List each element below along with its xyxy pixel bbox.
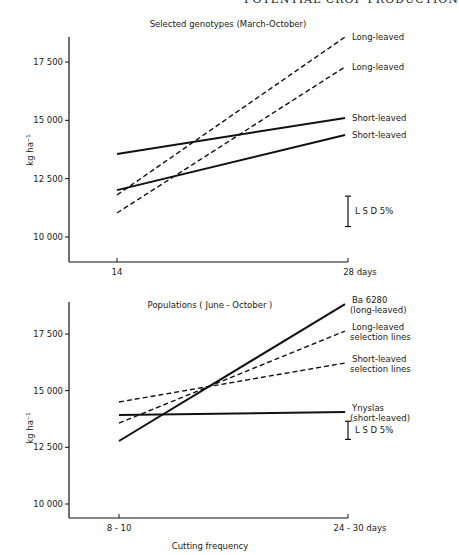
series-line-1 <box>119 304 345 441</box>
series-label: Short-leaved <box>352 113 406 123</box>
y-tick-label: 10 000 <box>33 499 63 509</box>
x-axis-label: Cutting frequency <box>172 541 248 551</box>
series-line-4 <box>119 412 345 415</box>
lsd-label: L S D 5% <box>355 425 393 435</box>
series-label: Short-leaved <box>352 130 406 140</box>
chart-title: Selected genotypes (March-October) <box>150 19 307 29</box>
series-line-1 <box>117 37 345 195</box>
series-line-4 <box>117 135 345 190</box>
series-label: Long-leaved <box>352 32 404 42</box>
x-tick-label: 14 <box>112 267 123 277</box>
series-label: Long-leaved <box>352 62 404 72</box>
series-label: Short-leaved <box>352 354 406 364</box>
y-tick-label: 17 500 <box>33 57 63 67</box>
series-label: (short-leaved) <box>350 413 410 423</box>
series-label: Ba 6280 <box>352 295 387 305</box>
y-tick-label: 12 500 <box>33 174 63 184</box>
y-axis-label: kg ha⁻¹ <box>25 412 35 444</box>
series-line-3 <box>117 118 345 154</box>
x-tick-label: 24 - 30 days <box>334 523 387 533</box>
series-label: Long-leaved <box>352 322 404 332</box>
series-label: selection lines <box>350 332 411 342</box>
x-tick-label: 8 - 10 <box>107 523 132 533</box>
y-tick-label: 15 000 <box>33 115 63 125</box>
x-tick-label: 28 days <box>343 267 377 277</box>
chart-panel-2: 10 00012 50015 00017 5008 - 1024 - 30 da… <box>25 295 411 551</box>
chart-title: Populations ( June - October ) <box>148 300 273 310</box>
series-line-2 <box>117 67 345 213</box>
series-line-3 <box>119 363 345 402</box>
y-axis-label: kg ha⁻¹ <box>25 134 35 166</box>
y-tick-label: 17 500 <box>33 329 63 339</box>
chart-panel-1: 10 00012 50015 00017 5001428 dayskg ha⁻¹… <box>25 19 406 277</box>
series-label: (long-leaved) <box>350 305 407 315</box>
series-label: Ynyslas <box>351 403 385 413</box>
series-line-2 <box>119 331 345 423</box>
series-label: selection lines <box>350 364 411 374</box>
y-tick-label: 12 500 <box>33 442 63 452</box>
y-tick-label: 10 000 <box>33 232 63 242</box>
y-tick-label: 15 000 <box>33 386 63 396</box>
lsd-label: L S D 5% <box>355 206 393 216</box>
